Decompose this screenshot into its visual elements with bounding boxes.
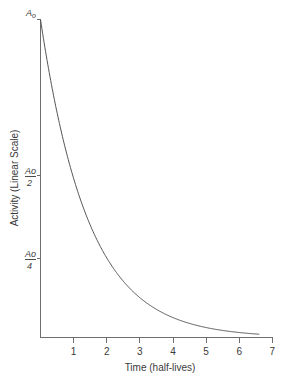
decay-curve-path xyxy=(41,20,260,335)
y-axis-title: Activity (Linear Scale) xyxy=(9,130,20,227)
x-tick-label-6: 6 xyxy=(237,346,243,357)
x-tick-label-7: 7 xyxy=(270,346,276,357)
x-tick-label-4: 4 xyxy=(170,346,176,357)
x-axis-title: Time (half-lives) xyxy=(125,362,196,373)
y-tick-label-ao-quarter-denominator: 4 xyxy=(27,261,32,271)
x-tick-label-1: 1 xyxy=(71,346,77,357)
x-tick-label-5: 5 xyxy=(203,346,209,357)
decay-chart-figure: Ao Ao 2 Ao 4 1 2 3 4 5 6 7 Time (half-li… xyxy=(0,0,284,379)
x-tick-label-2: 2 xyxy=(104,346,110,357)
y-tick-label-ao-half-numerator: Ao xyxy=(24,166,36,176)
chart-svg: Ao Ao 2 Ao 4 1 2 3 4 5 6 7 Time (half-li… xyxy=(0,0,284,379)
y-tick-label-ao: Ao xyxy=(25,8,36,19)
y-tick-label-ao-half-denominator: 2 xyxy=(26,178,32,188)
x-tick-label-3: 3 xyxy=(137,346,143,357)
y-tick-label-ao-quarter-numerator: Ao xyxy=(24,249,36,259)
